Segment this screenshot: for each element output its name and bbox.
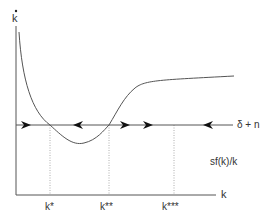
diagram-canvas — [0, 0, 275, 220]
k-2star-label: k** — [100, 202, 113, 212]
y-axis-label: k — [12, 13, 18, 24]
x-axis-label: k — [221, 189, 227, 200]
curve-label: sf(k)/k — [210, 157, 237, 167]
depreciation-label: δ + n — [237, 120, 260, 130]
savings-curve — [19, 32, 234, 144]
k-3star-label: k*** — [162, 202, 179, 212]
k-star-label: k* — [45, 202, 54, 212]
